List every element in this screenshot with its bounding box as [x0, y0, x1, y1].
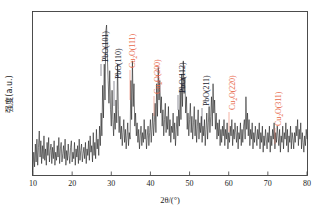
peak-label-cu2o-311: Cu2O(311): [274, 91, 284, 126]
x-axis-ticks: [33, 172, 307, 176]
x-tick-label: 50: [186, 179, 194, 188]
x-tick-label: 60: [225, 179, 233, 188]
y-axis-title: 强度(a.u.): [4, 75, 14, 112]
x-axis-tick-labels: 1020304050607080: [29, 179, 311, 188]
peak-label-pbo-112: PbO(112): [178, 62, 187, 93]
x-tick-label: 80: [303, 179, 311, 188]
peak-label-pbo-110: PbO(110): [114, 48, 123, 79]
peak-label-pbo-211: PbO(211): [202, 75, 211, 106]
x-tick-label: 10: [29, 179, 37, 188]
xrd-trace: [33, 25, 307, 172]
x-tick-label: 70: [264, 179, 272, 188]
plot-frame: [33, 12, 308, 176]
xrd-figure: 1020304050607080 PbO(101)PbO(110)Cu2O(11…: [0, 0, 321, 214]
peak-label-pbo-101: PbO(101): [101, 31, 110, 62]
peak-label-cu2o-200: Cu2O(200): [153, 59, 163, 94]
chart-canvas: 1020304050607080 PbO(101)PbO(110)Cu2O(11…: [0, 0, 321, 214]
x-axis-title: 2θ/(°): [160, 195, 180, 205]
x-tick-label: 20: [68, 179, 76, 188]
peak-label-cu2o-220: Cu2O(220): [228, 75, 238, 110]
x-tick-label: 30: [107, 179, 115, 188]
peak-label-cu2o-111: Cu2O(111): [128, 34, 138, 68]
x-tick-label: 40: [146, 179, 154, 188]
